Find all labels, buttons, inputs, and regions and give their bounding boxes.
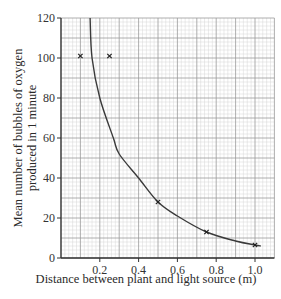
- y-axis-title-line1: Mean number of bubbles of oxygen: [11, 48, 25, 228]
- y-tick-label: 0: [49, 251, 55, 265]
- y-tick-label: 120: [37, 11, 55, 25]
- y-axis-ticks: 020406080100120: [37, 11, 61, 265]
- y-tick-label: 100: [37, 51, 55, 65]
- y-tick-label: 60: [43, 131, 55, 145]
- y-tick-label: 80: [43, 91, 55, 105]
- y-axis-title: Mean number of bubbles of oxygen produce…: [11, 48, 39, 228]
- y-tick-label: 20: [43, 211, 55, 225]
- x-marker-icon: [107, 54, 111, 58]
- x-axis-title: Distance between plant and light source …: [36, 272, 257, 286]
- chart: 020406080100120 0.20.40.60.81.0 Distance…: [0, 0, 281, 299]
- y-axis-title-line2: produced in 1 minute: [25, 84, 39, 191]
- y-tick-label: 40: [43, 171, 55, 185]
